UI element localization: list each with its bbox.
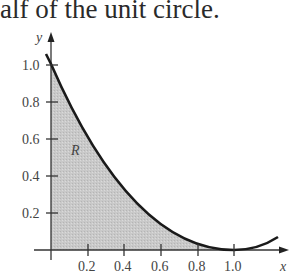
x-axis-label: x [279, 259, 287, 274]
region-label: R [70, 143, 80, 158]
y-axis-label: y [34, 30, 43, 45]
y-tick-label: 0.2 [22, 206, 40, 221]
x-tick-label: 0.6 [151, 259, 169, 274]
y-tick-label: 0.6 [22, 132, 40, 147]
x-axis-arrow-icon [279, 247, 289, 254]
x-tick-label: 0.2 [78, 259, 96, 274]
chart: 0.2 0.4 0.6 0.8 1.0 0.2 0.4 0.6 0.8 1.0 … [0, 0, 294, 275]
x-tick-label: 0.8 [188, 259, 206, 274]
x-tick-label: 0.4 [114, 259, 132, 274]
y-tick-label: 0.4 [22, 169, 40, 184]
x-tick-label: 1.0 [224, 259, 242, 274]
y-tick-label: 0.8 [22, 95, 40, 110]
y-axis-arrow-icon [48, 32, 55, 42]
y-tick-label: 1.0 [22, 58, 40, 73]
